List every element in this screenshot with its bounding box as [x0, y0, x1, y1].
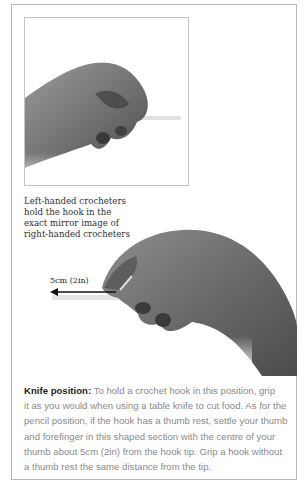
right-hand-knife-grip-icon [12, 226, 297, 376]
knife-position-description: Knife position: To hold a crochet hook i… [24, 383, 296, 474]
description-line: thumb about 5cm (2in) from the hook tip.… [24, 444, 296, 459]
left-hand-holding-hook-icon [25, 18, 189, 186]
description-line: a thumb rest the same distance from the … [24, 459, 296, 474]
caption-line: Left-handed crocheters [24, 196, 174, 207]
knife-grip-photo [12, 226, 297, 376]
left-hand-photo [24, 17, 189, 186]
description-heading: Knife position: [24, 385, 91, 396]
description-line: it as you would when using a table knife… [24, 398, 296, 413]
caption-line: hold the hook in the [24, 207, 174, 218]
measurement-label: 5cm (2in) [50, 276, 89, 285]
description-line: To hold a crochet hook in this position,… [91, 385, 275, 396]
description-line: and forefinger in this shaped section wi… [24, 429, 296, 444]
description-line: pencil position, if the hook has a thumb… [24, 413, 296, 428]
measurement-arrow-icon [50, 287, 120, 297]
